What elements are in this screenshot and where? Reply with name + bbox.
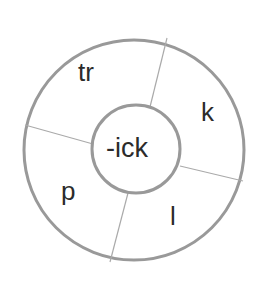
- segment-label-l: l: [170, 203, 176, 229]
- segment-label-k: k: [201, 99, 214, 125]
- segment-label-tr: tr: [78, 59, 94, 85]
- word-family-wheel-diagram: tr k l p -ick: [0, 0, 269, 294]
- segment-label-p: p: [61, 178, 75, 204]
- center-rime-label: -ick: [106, 135, 148, 162]
